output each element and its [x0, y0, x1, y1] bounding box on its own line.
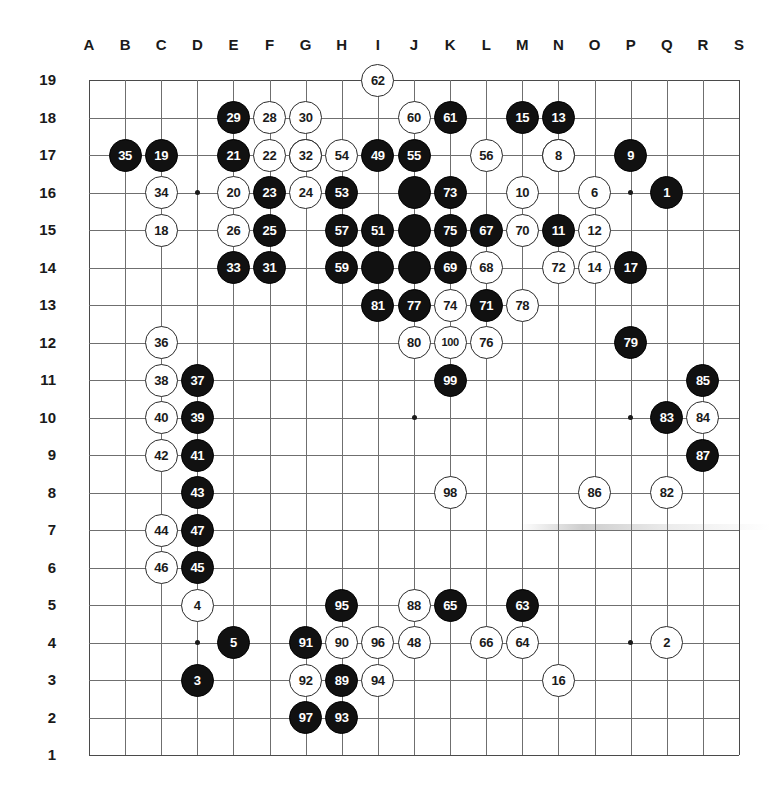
stone-black-97[interactable]: 97: [289, 701, 322, 734]
stone-black-95[interactable]: 95: [325, 589, 358, 622]
stone-white-92[interactable]: 92: [289, 664, 322, 697]
stone-black-25[interactable]: 25: [253, 214, 286, 247]
stone-black-9[interactable]: 9: [614, 139, 647, 172]
stone-white-6[interactable]: 6: [578, 176, 611, 209]
stone-black-unnumbered[interactable]: [398, 176, 431, 209]
stone-white-88[interactable]: 88: [398, 589, 431, 622]
stone-black-71[interactable]: 71: [470, 289, 503, 322]
stone-black-53[interactable]: 53: [325, 176, 358, 209]
stone-white-72[interactable]: 72: [542, 251, 575, 284]
stone-white-62[interactable]: 62: [361, 64, 394, 97]
stone-black-5[interactable]: 5: [217, 626, 250, 659]
stone-black-17[interactable]: 17: [614, 251, 647, 284]
stone-black-43[interactable]: 43: [181, 476, 214, 509]
stone-black-89[interactable]: 89: [325, 664, 358, 697]
stone-black-1[interactable]: 1: [650, 176, 683, 209]
stone-white-28[interactable]: 28: [253, 101, 286, 134]
stone-black-31[interactable]: 31: [253, 251, 286, 284]
stone-white-2[interactable]: 2: [650, 626, 683, 659]
stone-black-83[interactable]: 83: [650, 401, 683, 434]
stone-white-54[interactable]: 54: [325, 139, 358, 172]
stone-white-78[interactable]: 78: [506, 289, 539, 322]
stone-black-65[interactable]: 65: [434, 589, 467, 622]
go-board-grid[interactable]: 1357911131517192123252729313335373941434…: [89, 80, 739, 755]
stone-black-35[interactable]: 35: [109, 139, 142, 172]
stone-white-48[interactable]: 48: [398, 626, 431, 659]
stone-black-15[interactable]: 15: [506, 101, 539, 134]
stone-white-34[interactable]: 34: [145, 176, 178, 209]
stone-black-37[interactable]: 37: [181, 364, 214, 397]
stone-black-77[interactable]: 77: [398, 289, 431, 322]
stone-white-14[interactable]: 14: [578, 251, 611, 284]
stone-white-66[interactable]: 66: [470, 626, 503, 659]
stone-white-32[interactable]: 32: [289, 139, 322, 172]
stone-white-60[interactable]: 60: [398, 101, 431, 134]
stone-white-42[interactable]: 42: [145, 439, 178, 472]
stone-black-73[interactable]: 73: [434, 176, 467, 209]
stone-white-38[interactable]: 38: [145, 364, 178, 397]
stone-white-86[interactable]: 86: [578, 476, 611, 509]
stone-black-85[interactable]: 85: [686, 364, 719, 397]
stone-black-13[interactable]: 13: [542, 101, 575, 134]
stone-white-94[interactable]: 94: [361, 664, 394, 697]
stone-white-4[interactable]: 4: [181, 589, 214, 622]
stone-white-24[interactable]: 24: [289, 176, 322, 209]
stone-white-84[interactable]: 84: [686, 401, 719, 434]
stone-black-19[interactable]: 19: [145, 139, 178, 172]
stone-white-68[interactable]: 68: [470, 251, 503, 284]
stone-black-41[interactable]: 41: [181, 439, 214, 472]
stone-white-12[interactable]: 12: [578, 214, 611, 247]
stone-white-64[interactable]: 64: [506, 626, 539, 659]
stone-white-82[interactable]: 82: [650, 476, 683, 509]
stone-black-59[interactable]: 59: [325, 251, 358, 284]
stone-white-30[interactable]: 30: [289, 101, 322, 134]
stone-black-49[interactable]: 49: [361, 139, 394, 172]
stone-black-87[interactable]: 87: [686, 439, 719, 472]
stone-black-23[interactable]: 23: [253, 176, 286, 209]
stone-white-10[interactable]: 10: [506, 176, 539, 209]
stone-white-100[interactable]: 100: [434, 326, 467, 359]
stone-black-55[interactable]: 55: [398, 139, 431, 172]
stone-white-40[interactable]: 40: [145, 401, 178, 434]
stone-black-75[interactable]: 75: [434, 214, 467, 247]
stone-black-unnumbered[interactable]: [398, 251, 431, 284]
stone-black-93[interactable]: 93: [325, 701, 358, 734]
stone-black-33[interactable]: 33: [217, 251, 250, 284]
stone-white-90[interactable]: 90: [325, 626, 358, 659]
stone-white-70[interactable]: 70: [506, 214, 539, 247]
stone-black-79[interactable]: 79: [614, 326, 647, 359]
stone-black-45[interactable]: 45: [181, 551, 214, 584]
stone-black-81[interactable]: 81: [361, 289, 394, 322]
stone-white-20[interactable]: 20: [217, 176, 250, 209]
stone-white-8[interactable]: 8: [542, 139, 575, 172]
stone-white-74[interactable]: 74: [434, 289, 467, 322]
stone-black-29[interactable]: 29: [217, 101, 250, 134]
stone-white-22[interactable]: 22: [253, 139, 286, 172]
stone-white-56[interactable]: 56: [470, 139, 503, 172]
stone-white-46[interactable]: 46: [145, 551, 178, 584]
stone-black-69[interactable]: 69: [434, 251, 467, 284]
stone-white-98[interactable]: 98: [434, 476, 467, 509]
stone-white-18[interactable]: 18: [145, 214, 178, 247]
stone-black-99[interactable]: 99: [434, 364, 467, 397]
stone-black-61[interactable]: 61: [434, 101, 467, 134]
stone-black-47[interactable]: 47: [181, 514, 214, 547]
stone-white-76[interactable]: 76: [470, 326, 503, 359]
stone-black-11[interactable]: 11: [542, 214, 575, 247]
stone-black-67[interactable]: 67: [470, 214, 503, 247]
stone-black-51[interactable]: 51: [361, 214, 394, 247]
stone-white-44[interactable]: 44: [145, 514, 178, 547]
stone-white-26[interactable]: 26: [217, 214, 250, 247]
stone-white-80[interactable]: 80: [398, 326, 431, 359]
stone-black-unnumbered[interactable]: [361, 251, 394, 284]
stone-black-unnumbered[interactable]: [398, 214, 431, 247]
stone-white-16[interactable]: 16: [542, 664, 575, 697]
stone-black-91[interactable]: 91: [289, 626, 322, 659]
stone-black-21[interactable]: 21: [217, 139, 250, 172]
stone-black-3[interactable]: 3: [181, 664, 214, 697]
stone-black-63[interactable]: 63: [506, 589, 539, 622]
stone-white-96[interactable]: 96: [361, 626, 394, 659]
stone-black-57[interactable]: 57: [325, 214, 358, 247]
stone-white-36[interactable]: 36: [145, 326, 178, 359]
stone-black-39[interactable]: 39: [181, 401, 214, 434]
